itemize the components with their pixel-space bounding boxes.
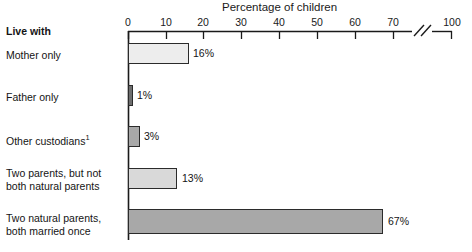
- footnote-marker: 1: [85, 133, 89, 142]
- x-tick-label-70: 70: [387, 16, 399, 28]
- bar-value-father-only: 1%: [137, 89, 152, 101]
- category-label-two-natural-parents-married-once: Two natural parents, both married once: [6, 212, 101, 237]
- bar-other-custodians: [128, 126, 140, 147]
- x-tick-label-0: 0: [125, 16, 131, 28]
- category-label-father-only: Father only: [6, 91, 59, 104]
- x-axis-ticks: [129, 31, 452, 39]
- x-tick-label-100: 100: [443, 16, 461, 28]
- category-label-mother-only: Mother only: [6, 49, 61, 62]
- bar-value-two-natural-parents-married-once: 67%: [388, 215, 409, 227]
- x-tick-label-40: 40: [273, 16, 285, 28]
- axis-break-icon: [414, 25, 431, 36]
- x-tick-label-30: 30: [235, 16, 247, 28]
- category-label-other-custodians-text: Other custodians: [6, 135, 85, 147]
- x-tick-label-10: 10: [160, 16, 172, 28]
- bar-father-only: [128, 85, 133, 106]
- bar-two-natural-parents-married-once: [128, 209, 383, 234]
- bar-mother-only: [128, 43, 189, 64]
- category-label-two-parents-not-both-natural: Two parents, but not both natural parent…: [6, 167, 101, 192]
- bar-two-parents-not-both-natural: [128, 168, 177, 189]
- bar-value-two-parents-not-both-natural: 13%: [182, 172, 203, 184]
- group-header-live-with: Live with: [6, 25, 51, 38]
- x-tick-label-50: 50: [311, 16, 323, 28]
- bar-chart: Percentage of children 0 10 20: [0, 0, 472, 252]
- bar-value-mother-only: 16%: [193, 47, 214, 59]
- category-label-other-custodians: Other custodians1: [6, 132, 90, 147]
- x-tick-label-20: 20: [197, 16, 209, 28]
- bar-value-other-custodians: 3%: [144, 130, 159, 142]
- x-tick-label-60: 60: [349, 16, 361, 28]
- chart-title: Percentage of children: [222, 1, 337, 13]
